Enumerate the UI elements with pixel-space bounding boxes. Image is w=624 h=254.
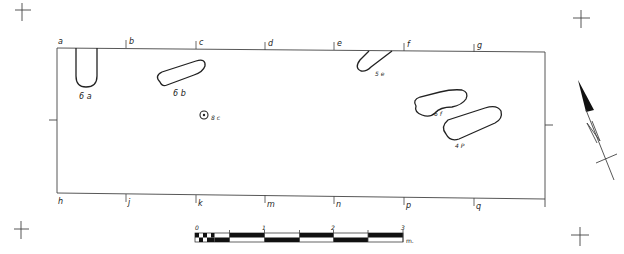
grid-label-b: b (129, 37, 134, 46)
feature-5e: 5 e (357, 51, 392, 77)
trench-outline (49, 48, 553, 207)
north-arrow-head-icon (578, 80, 594, 112)
registration-cross-top-left (15, 3, 31, 21)
site-plan-drawing: a b c d e f g h j k m n p q 6 a 6 b 8 c … (0, 0, 624, 254)
scale-label-3: 3 (401, 224, 405, 231)
registration-cross-bottom-left (14, 221, 29, 239)
scale-unit: m. (406, 237, 414, 244)
grid-label-k: k (198, 199, 203, 208)
grid-label-n: n (336, 200, 341, 209)
feature-6a: 6 a (76, 48, 97, 101)
grid-label-p: p (405, 201, 411, 210)
feature-label-4p: 4 P (455, 142, 465, 149)
scale-bar: 0 1 2 3 m. (195, 224, 414, 244)
grid-label-q: q (476, 202, 481, 211)
feature-label-8c: 8 c (211, 114, 221, 121)
registration-cross-bottom-right (571, 227, 589, 246)
grid-label-m: m (267, 200, 275, 209)
grid-label-d: d (268, 39, 274, 48)
feature-label-5e: 5 e (375, 70, 385, 77)
grid-label-h: h (58, 197, 63, 206)
feature-label-6a: 6 a (79, 92, 92, 101)
grid-label-e: e (337, 39, 342, 48)
scale-label-2: 2 (331, 224, 335, 231)
feature-4p: 4 P (443, 107, 501, 149)
grid-label-f: f (407, 40, 411, 49)
scale-label-0: 0 (195, 224, 199, 231)
grid-label-j: j (127, 198, 131, 207)
grid-label-a: a (58, 37, 63, 46)
north-arrow (578, 80, 617, 180)
feature-8c: 8 c (200, 111, 221, 121)
feature-label-6b: 6 b (173, 89, 186, 98)
scale-label-1: 1 (262, 224, 266, 231)
grid-label-c: c (199, 38, 204, 47)
feature-6b: 6 b (157, 60, 205, 98)
feature-6f: 6 f (415, 90, 467, 117)
grid-label-g: g (477, 41, 482, 50)
registration-cross-top-right (573, 10, 590, 28)
feature-label-6f: 6 f (434, 110, 443, 117)
